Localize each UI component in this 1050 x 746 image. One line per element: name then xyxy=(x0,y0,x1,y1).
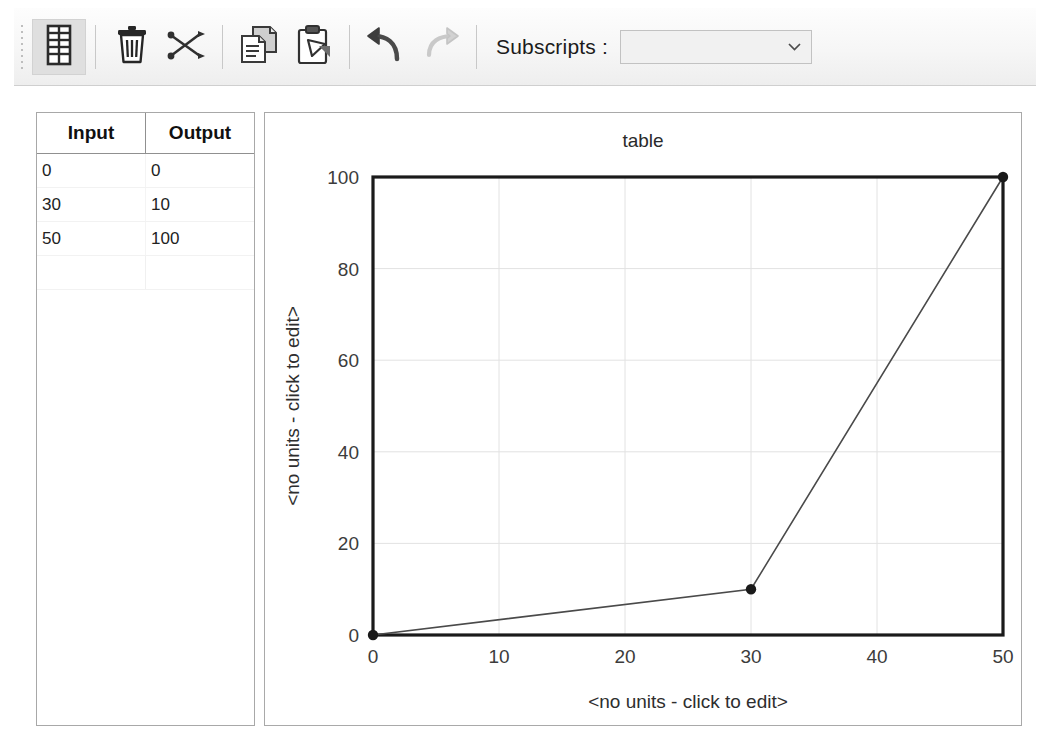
y-tick-label: 0 xyxy=(348,625,359,646)
cell-input[interactable]: 0 xyxy=(37,154,146,188)
x-tick-label: 20 xyxy=(614,646,635,667)
cell-output[interactable]: 100 xyxy=(146,222,255,256)
cut-button[interactable] xyxy=(159,19,213,75)
cell-input[interactable] xyxy=(37,256,146,290)
table-row[interactable]: 0 0 xyxy=(37,154,254,188)
cell-output[interactable]: 10 xyxy=(146,188,255,222)
cell-output[interactable] xyxy=(146,256,255,290)
chevron-down-icon xyxy=(787,38,802,56)
y-tick-label: 40 xyxy=(338,442,359,463)
delete-button[interactable] xyxy=(105,19,159,75)
input-output-table[interactable]: Input Output 0 0 30 10 50 100 xyxy=(37,113,254,290)
x-tick-label: 40 xyxy=(866,646,887,667)
data-table-panel: Input Output 0 0 30 10 50 100 xyxy=(36,112,255,726)
toolbar-drag-grip[interactable] xyxy=(18,21,28,73)
y-tick-label: 80 xyxy=(338,259,359,280)
table-row[interactable]: 30 10 xyxy=(37,188,254,222)
undo-arrow-icon xyxy=(364,25,408,69)
copy-button[interactable] xyxy=(232,19,286,75)
x-tick-label: 10 xyxy=(488,646,509,667)
redo-arrow-icon xyxy=(418,25,462,69)
paste-icon xyxy=(292,24,334,70)
scissors-icon xyxy=(165,25,207,69)
paste-button[interactable] xyxy=(286,19,340,75)
redo-button[interactable] xyxy=(413,19,467,75)
chart-gridlines xyxy=(373,177,1003,635)
x-tick-label: 50 xyxy=(992,646,1013,667)
y-tick-label: 60 xyxy=(338,350,359,371)
y-axis-tick-labels: 020406080100 xyxy=(327,167,359,646)
toolbar-separator-4 xyxy=(476,25,477,69)
y-tick-label: 100 xyxy=(327,167,359,188)
chart-canvas[interactable]: 01020304050 020406080100 <no units - cli… xyxy=(265,113,1021,725)
y-tick-label: 20 xyxy=(338,533,359,554)
cell-input[interactable]: 50 xyxy=(37,222,146,256)
main-toolbar: Subscripts : xyxy=(14,8,1036,86)
subscripts-dropdown[interactable] xyxy=(620,30,812,64)
table-header-row: Input Output xyxy=(37,113,254,154)
toolbar-separator-1 xyxy=(95,25,96,69)
trash-icon xyxy=(113,24,151,70)
undo-button[interactable] xyxy=(359,19,413,75)
copy-icon xyxy=(238,24,280,70)
y-axis-label[interactable]: <no units - click to edit> xyxy=(282,306,303,506)
toolbar-separator-2 xyxy=(222,25,223,69)
data-point-marker[interactable] xyxy=(746,584,756,594)
toolbar-separator-3 xyxy=(349,25,350,69)
x-tick-label: 30 xyxy=(740,646,761,667)
x-tick-label: 0 xyxy=(368,646,379,667)
cell-output[interactable]: 0 xyxy=(146,154,255,188)
subscripts-label: Subscripts : xyxy=(496,35,608,59)
table-row-empty[interactable] xyxy=(37,256,254,290)
x-axis-tick-labels: 01020304050 xyxy=(368,646,1014,667)
data-point-marker[interactable] xyxy=(998,172,1008,182)
column-header-output[interactable]: Output xyxy=(146,113,255,154)
column-header-input[interactable]: Input xyxy=(37,113,146,154)
table-icon xyxy=(42,24,76,70)
chart-panel: table 01020304050 020406080100 <no units… xyxy=(264,112,1022,726)
cell-input[interactable]: 30 xyxy=(37,188,146,222)
table-view-button[interactable] xyxy=(32,19,86,75)
chart-plot-frame xyxy=(373,177,1003,635)
data-series-line[interactable] xyxy=(368,172,1008,640)
data-point-marker[interactable] xyxy=(368,630,378,640)
table-row[interactable]: 50 100 xyxy=(37,222,254,256)
x-axis-label[interactable]: <no units - click to edit> xyxy=(588,691,788,712)
